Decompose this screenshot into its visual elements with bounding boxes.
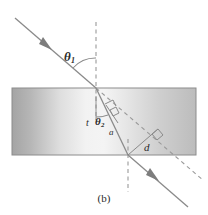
label-path-a: a <box>109 128 114 137</box>
label-thickness-t: t <box>86 118 89 128</box>
label-theta1: θ1 <box>64 50 75 65</box>
figure-caption: (b) <box>0 192 208 204</box>
angle-arc-theta1 <box>73 58 96 68</box>
diagram-canvas <box>0 0 208 215</box>
incident-ray-arrowhead <box>39 37 52 50</box>
figure-refraction-slab: θ1 θ2 t a d (b) <box>0 0 208 215</box>
label-displacement-d: d <box>144 142 150 153</box>
label-theta2: θ2 <box>95 116 104 128</box>
incident-ray <box>15 18 96 88</box>
exit-ray-arrowhead <box>146 168 159 181</box>
